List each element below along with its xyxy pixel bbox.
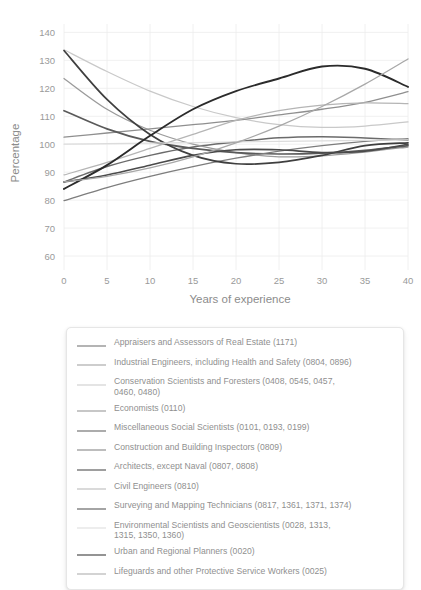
y-axis-title: Percentage	[9, 124, 21, 183]
y-tick-90: 90	[44, 167, 55, 178]
x-tick-40: 40	[403, 275, 414, 286]
legend-item[interactable]: Economists (0110)	[77, 403, 395, 417]
legend-item[interactable]: Urban and Regional Planners (0020)	[77, 546, 395, 560]
legend-line-swatch	[77, 484, 106, 495]
legend-line-swatch	[77, 340, 106, 351]
legend-item[interactable]: Lifeguards and other Protective Service …	[77, 566, 395, 580]
legend-item-label: Surveying and Mapping Technicians (0817,…	[114, 500, 352, 511]
legend-item-label: Construction and Building Inspectors (08…	[114, 442, 282, 453]
x-tick-0: 0	[61, 275, 66, 286]
legend-line-swatch	[77, 549, 106, 560]
x-tick-10: 10	[145, 275, 156, 286]
legend-line-swatch	[77, 379, 106, 390]
legend-item[interactable]: Appraisers and Assessors of Real Estate …	[77, 337, 395, 351]
x-tick-25: 25	[274, 275, 285, 286]
legend-line-swatch	[77, 464, 106, 475]
legend-line-swatch	[77, 503, 106, 514]
legend-item[interactable]: Conservation Scientists and Foresters (0…	[77, 376, 395, 397]
y-tick-120: 120	[39, 83, 55, 94]
legend-line-swatch	[77, 425, 106, 436]
legend-line-swatch	[77, 406, 106, 417]
x-axis-title: Years of experience	[189, 293, 290, 305]
legend-line-swatch	[77, 569, 106, 580]
y-tick-140: 140	[39, 27, 55, 38]
y-tick-130: 130	[39, 55, 55, 66]
legend-item-label: Industrial Engineers, including Health a…	[114, 357, 352, 368]
y-axis-tick-labels: 60708090100110120130140	[39, 27, 55, 262]
legend-item[interactable]: Surveying and Mapping Technicians (0817,…	[77, 500, 395, 514]
legend-line-swatch	[77, 360, 106, 371]
y-tick-60: 60	[44, 251, 55, 262]
legend-item-label: Miscellaneous Social Scientists (0101, 0…	[114, 422, 309, 433]
x-tick-35: 35	[360, 275, 371, 286]
legend-item-label: Civil Engineers (0810)	[114, 481, 199, 492]
y-tick-110: 110	[40, 111, 55, 122]
legend-item[interactable]: Construction and Building Inspectors (08…	[77, 442, 395, 456]
legend-item[interactable]: Civil Engineers (0810)	[77, 481, 395, 495]
legend-item-label: Economists (0110)	[114, 403, 185, 414]
y-tick-100: 100	[39, 139, 55, 150]
legend-item-label: Appraisers and Assessors of Real Estate …	[114, 337, 297, 348]
legend-item[interactable]: Architects, except Naval (0807, 0808)	[77, 461, 395, 475]
y-tick-80: 80	[44, 195, 55, 206]
x-tick-30: 30	[317, 275, 328, 286]
legend-item-label: Urban and Regional Planners (0020)	[114, 546, 255, 557]
x-tick-15: 15	[188, 275, 199, 286]
y-tick-70: 70	[44, 223, 55, 234]
legend-item-label: Conservation Scientists and Foresters (0…	[114, 376, 335, 397]
legend-item[interactable]: Industrial Engineers, including Health a…	[77, 357, 395, 371]
x-axis-tick-labels: 0510152025303540	[61, 275, 413, 286]
legend-item-label: Architects, except Naval (0807, 0808)	[114, 461, 258, 472]
legend-item-label: Lifeguards and other Protective Service …	[114, 566, 327, 577]
legend-item-label: Environmental Scientists and Geoscientis…	[114, 520, 331, 541]
chart-canvas: 0510152025303540 60708090100110120130140…	[0, 0, 421, 312]
legend-line-swatch	[77, 523, 106, 534]
x-tick-5: 5	[104, 275, 109, 286]
legend: Appraisers and Assessors of Real Estate …	[66, 327, 404, 590]
legend-line-swatch	[77, 445, 106, 456]
legend-item[interactable]: Miscellaneous Social Scientists (0101, 0…	[77, 422, 395, 436]
line-chart: 0510152025303540 60708090100110120130140…	[0, 0, 421, 312]
legend-item[interactable]: Environmental Scientists and Geoscientis…	[77, 520, 395, 541]
x-tick-20: 20	[231, 275, 242, 286]
